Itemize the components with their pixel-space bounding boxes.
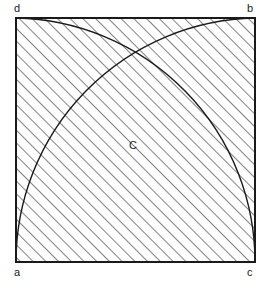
geometry-figure: d b a c C xyxy=(0,0,272,292)
vertex-label-c: c xyxy=(247,267,253,278)
region-label-lens: C xyxy=(129,140,137,151)
vertex-label-d: d xyxy=(14,3,20,14)
vertex-label-a: a xyxy=(14,267,20,278)
vertex-label-b: b xyxy=(247,3,253,14)
